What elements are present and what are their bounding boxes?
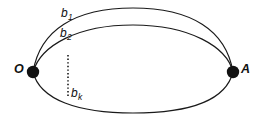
curve-label-b2-subscript: 2	[67, 32, 72, 42]
vertex-label-O: O	[14, 63, 24, 76]
curve-label-b1: b1	[61, 7, 72, 19]
curve-label-b2-base: b	[60, 26, 67, 40]
chord-label-bk-base: b	[71, 86, 78, 100]
arc-bottom	[33, 72, 233, 113]
vertex-dot-O	[27, 66, 39, 78]
vertex-label-A: A	[241, 63, 250, 76]
curve-label-b2: b2	[60, 27, 71, 39]
chord-label-bk: bk	[71, 87, 82, 99]
vertex-dot-A	[227, 66, 239, 78]
curve-label-b1-subscript: 1	[68, 12, 73, 22]
diagram-canvas	[0, 0, 263, 127]
figure-container: O A b1 b2 bk	[0, 0, 263, 127]
chord-label-bk-subscript: k	[78, 92, 82, 102]
curve-label-b1-base: b	[61, 6, 68, 20]
